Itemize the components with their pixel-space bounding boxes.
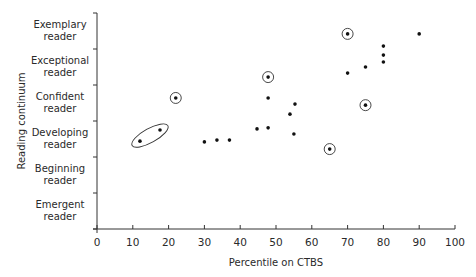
group-ellipse-annotation <box>129 120 172 152</box>
x-tick-label: 20 <box>162 236 175 248</box>
data-point <box>266 126 270 130</box>
data-point <box>417 32 421 36</box>
y-category-label: Exemplaryreader <box>33 19 86 42</box>
x-axis-title: Percentile on CTBS <box>229 257 323 268</box>
chart-canvas: 0102030405060708090100 EmergentreaderBeg… <box>0 0 476 277</box>
data-point <box>215 138 219 142</box>
data-point <box>382 44 386 48</box>
y-axis-title: Reading continuum <box>16 72 27 169</box>
y-category-label: Developingreader <box>32 127 89 150</box>
data-point <box>328 147 332 151</box>
x-tick-label: 30 <box>198 236 211 248</box>
data-point <box>255 127 259 131</box>
x-axis-ticks: 0102030405060708090100 <box>94 225 465 248</box>
x-tick-label: 10 <box>126 236 139 248</box>
data-point <box>138 139 142 143</box>
x-tick-label: 100 <box>445 236 465 248</box>
x-tick-label: 70 <box>341 236 354 248</box>
data-point <box>364 103 368 107</box>
y-category-label: Exceptionalreader <box>31 55 89 78</box>
annotations <box>129 120 172 152</box>
data-point <box>292 132 296 136</box>
y-category-label: Beginningreader <box>35 163 85 186</box>
axes <box>93 13 455 233</box>
data-points <box>138 28 421 154</box>
x-tick-label: 90 <box>413 236 426 248</box>
data-point <box>382 53 386 57</box>
data-point <box>346 71 350 75</box>
data-point <box>266 75 270 79</box>
y-category-label: Confidentreader <box>36 91 85 114</box>
data-point <box>346 32 350 36</box>
x-tick-label: 0 <box>94 236 101 248</box>
data-point <box>228 138 232 142</box>
data-point <box>158 128 162 132</box>
x-tick-label: 50 <box>269 236 282 248</box>
x-tick-label: 40 <box>234 236 247 248</box>
data-point <box>174 96 178 100</box>
data-point <box>293 102 297 106</box>
y-category-label: Emergentreader <box>36 199 85 222</box>
data-point <box>364 65 368 69</box>
y-axis-category-labels: EmergentreaderBeginningreaderDevelopingr… <box>31 13 97 229</box>
data-point <box>382 60 386 64</box>
data-point <box>203 140 207 144</box>
x-tick-label: 80 <box>377 236 390 248</box>
data-point <box>266 96 270 100</box>
data-point <box>288 112 292 116</box>
x-tick-label: 60 <box>305 236 318 248</box>
scatter-chart: 0102030405060708090100 EmergentreaderBeg… <box>0 0 476 277</box>
